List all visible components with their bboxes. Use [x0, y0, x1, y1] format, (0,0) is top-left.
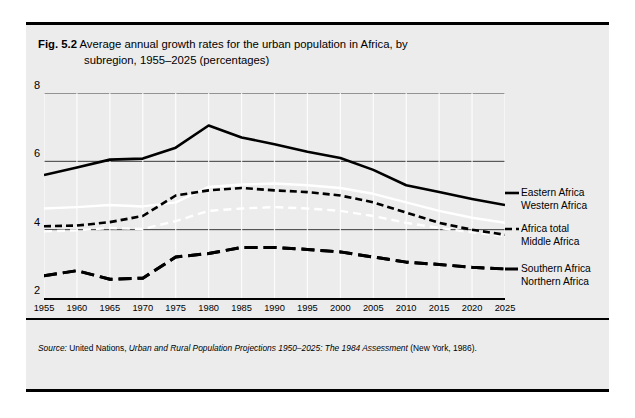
x-axis-tick-1980: 1980: [192, 303, 226, 313]
figure-title-line-2: subregion, 1955–2025 (percentages): [38, 52, 508, 68]
x-axis-tick-1995: 1995: [290, 303, 324, 313]
figure-title: Fig. 5.2 Average annual growth rates for…: [38, 36, 508, 68]
source-prefix: Source:: [38, 343, 67, 353]
chart-svg: [44, 93, 505, 298]
top-rule: [26, 22, 609, 25]
axis-underline-rule: [26, 318, 609, 320]
legend-label-middle: Middle Africa: [521, 236, 579, 247]
chart-plot-area: [44, 93, 505, 298]
x-axis-tick-2025: 2025: [488, 303, 522, 313]
source-place-year: (New York, 1986).: [410, 343, 477, 353]
x-axis-tick-1975: 1975: [159, 303, 193, 313]
y-axis-tick-2: 2: [24, 284, 40, 296]
x-axis-tick-2005: 2005: [356, 303, 390, 313]
x-axis-tick-2020: 2020: [455, 303, 489, 313]
x-axis-tick-1960: 1960: [60, 303, 94, 313]
legend-label-southern: Southern Africa: [521, 263, 591, 274]
source-work-title: Urban and Rural Population Projections 1…: [129, 343, 408, 353]
x-axis-tick-1955: 1955: [27, 303, 61, 313]
figure-number: Fig. 5.2: [38, 38, 77, 50]
x-axis-tick-1965: 1965: [93, 303, 127, 313]
x-axis-tick-2015: 2015: [422, 303, 456, 313]
figure-page: Fig. 5.2 Average annual growth rates for…: [0, 0, 635, 418]
source-publisher: United Nations,: [69, 343, 126, 353]
x-axis-tick-1985: 1985: [225, 303, 259, 313]
legend-label-northern: Northern Africa: [521, 276, 589, 287]
legend-label-total: Africa total: [521, 223, 569, 234]
y-axis-tick-6: 6: [24, 147, 40, 159]
x-axis-tick-2010: 2010: [389, 303, 423, 313]
x-axis-line: [44, 298, 505, 300]
figure-title-line-1: Average annual growth rates for the urba…: [79, 38, 407, 50]
y-axis-tick-4: 4: [24, 216, 40, 228]
x-axis-tick-1990: 1990: [258, 303, 292, 313]
legend-label-western: Western Africa: [521, 200, 587, 211]
bottom-rule: [26, 389, 609, 392]
y-axis-tick-8: 8: [24, 79, 40, 91]
x-axis-tick-2000: 2000: [323, 303, 357, 313]
legend-label-eastern: Eastern Africa: [521, 187, 584, 198]
x-axis-tick-1970: 1970: [126, 303, 160, 313]
source-note: Source: United Nations, Urban and Rural …: [38, 343, 477, 353]
chart-vertical-gridlines: [44, 93, 505, 298]
